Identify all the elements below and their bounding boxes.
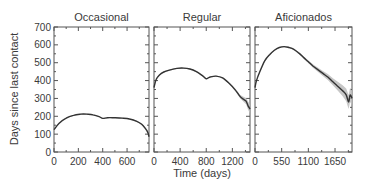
x-tick-label: 1650 xyxy=(324,156,347,167)
panel-occasional: Occasional010020030040050060070002004006… xyxy=(34,11,149,167)
panel-title: Occasional xyxy=(74,11,128,23)
x-tick-label: 0 xyxy=(252,156,258,167)
y-tick-label: 200 xyxy=(34,111,51,122)
x-tick-label: 1100 xyxy=(298,156,320,167)
y-tick-label: 100 xyxy=(34,129,51,140)
x-tick-label: 400 xyxy=(172,156,189,167)
x-tick-label: 0 xyxy=(51,156,57,167)
x-tick-label: 400 xyxy=(94,156,111,167)
x-tick-label: 550 xyxy=(273,156,290,167)
y-tick-label: 400 xyxy=(34,75,51,86)
series-line xyxy=(255,47,352,102)
series-line xyxy=(54,114,149,137)
panel-title: Regular xyxy=(183,11,222,23)
x-tick-label: 1200 xyxy=(221,156,244,167)
series-line xyxy=(154,68,250,109)
panel-aficionados: Aficionados055011001650 xyxy=(252,11,352,167)
x-tick-label: 0 xyxy=(151,156,157,167)
panel-title: Aficionados xyxy=(275,11,332,23)
y-tick-label: 500 xyxy=(34,57,51,68)
y-tick-label: 300 xyxy=(34,93,51,104)
x-tick-label: 200 xyxy=(70,156,87,167)
panel-regular: Regular04008001200 xyxy=(151,11,250,167)
x-axis-label: Time (days) xyxy=(173,167,231,179)
plot-frame xyxy=(54,27,149,152)
y-axis-label: Days since last contact xyxy=(8,33,20,146)
x-tick-label: 600 xyxy=(119,156,136,167)
y-tick-label: 700 xyxy=(34,22,51,33)
y-tick-label: 600 xyxy=(34,39,51,50)
x-tick-label: 800 xyxy=(198,156,215,167)
small-multiples-chart: Days since last contact Time (days) Occa… xyxy=(0,0,368,180)
